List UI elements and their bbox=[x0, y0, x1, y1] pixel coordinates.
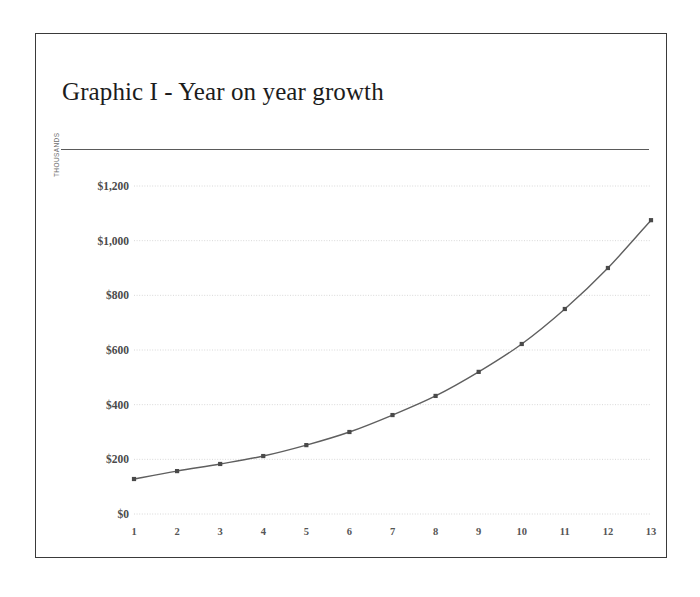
data-point-marker bbox=[390, 413, 394, 417]
chart-canvas: THOUSANDS $0$200$400$600$800$1,000$1,200… bbox=[36, 34, 668, 559]
slide-frame: Graphic I - Year on year growth THOUSAND… bbox=[35, 33, 667, 558]
data-point-marker bbox=[132, 477, 136, 481]
data-point-marker bbox=[477, 370, 481, 374]
data-point-marker bbox=[261, 454, 265, 458]
data-point-marker bbox=[175, 469, 179, 473]
data-point-marker bbox=[649, 218, 653, 222]
data-point-marker bbox=[606, 266, 610, 270]
data-point-marker bbox=[304, 443, 308, 447]
data-point-marker bbox=[563, 307, 567, 311]
data-point-marker bbox=[347, 430, 351, 434]
data-point-marker bbox=[520, 342, 524, 346]
data-point-marker bbox=[218, 462, 222, 466]
line-chart-plot bbox=[36, 34, 668, 559]
data-point-marker bbox=[433, 394, 437, 398]
